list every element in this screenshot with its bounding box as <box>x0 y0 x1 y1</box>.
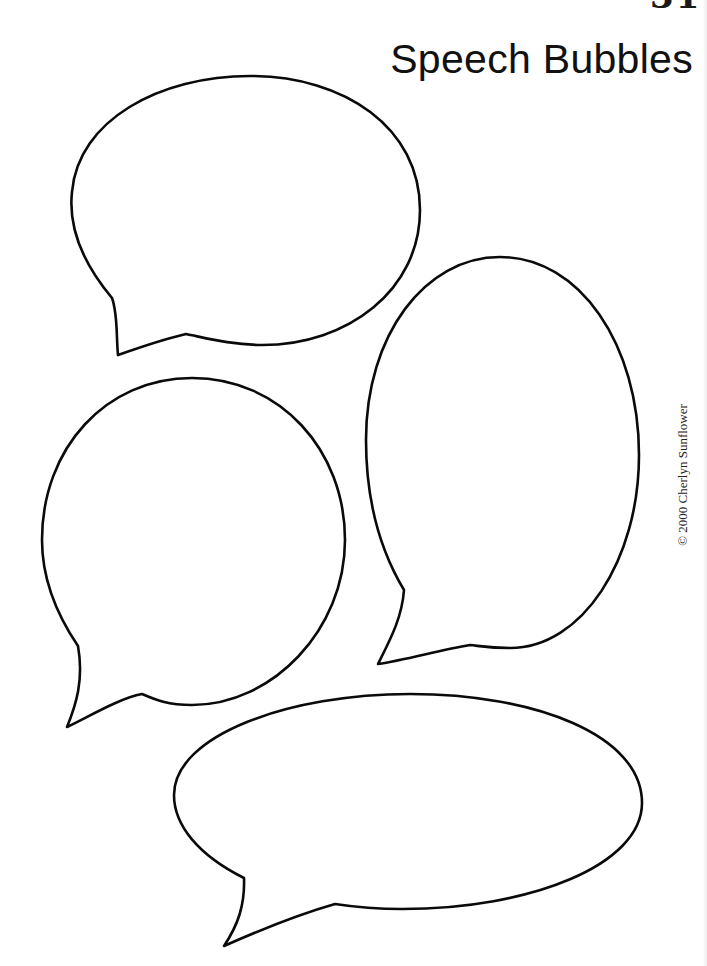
speech-bubble-top-left <box>71 76 420 355</box>
page-edge-shadow <box>703 0 707 966</box>
speech-bubble-middle-left <box>42 378 345 727</box>
speech-bubble-right <box>366 257 639 664</box>
speech-bubble-bottom <box>174 694 642 946</box>
speech-bubbles-artwork <box>0 0 707 966</box>
